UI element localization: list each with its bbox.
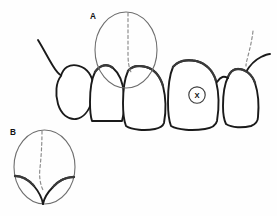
tooth-center-left [123,66,165,130]
diagram-canvas: A X B [0,0,277,216]
dental-diagram-figure: A X B [0,0,277,216]
tooth-far-left [56,65,93,119]
callout-a-label: A [90,12,96,21]
marker-x-label: X [194,91,199,100]
callout-b-label: B [10,128,16,137]
tooth-1-outline [56,65,93,119]
tooth-center-right [168,60,218,130]
